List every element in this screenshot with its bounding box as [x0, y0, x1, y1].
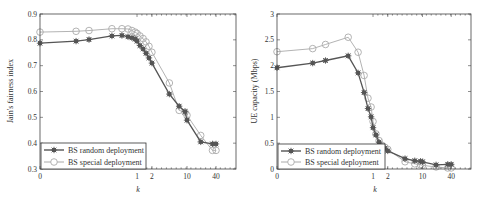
y-tick-label: 1.5: [265, 87, 275, 96]
x-tick-label: 40: [447, 172, 455, 181]
y-tick-label: 2.5: [265, 35, 275, 44]
x-tick-label: 2: [150, 172, 154, 181]
capacity-x-label: k: [373, 185, 377, 194]
y-tick-label: 0.5: [28, 113, 38, 122]
capacity-plot: 00.511.522.530121040 UE capacity (Mbps) …: [250, 10, 471, 195]
y-tick-label: 0: [270, 165, 274, 174]
x-tick-label: 1: [135, 172, 139, 181]
y-tick-label: 1: [270, 113, 274, 122]
figure: 0.30.40.50.60.70.80.90121040 Jain's fair…: [0, 0, 489, 204]
capacity-legend: BS random deployment BS special deployme…: [278, 144, 385, 169]
x-tick-label: 40: [212, 172, 220, 181]
fairness-plot: 0.30.40.50.60.70.80.90121040 Jain's fair…: [6, 10, 236, 195]
y-tick-label: 3: [270, 10, 274, 19]
capacity-y-label: UE capacity (Mbps): [250, 58, 259, 123]
fairness-legend-label-special: BS special deployment: [68, 158, 143, 167]
y-tick-label: 0.7: [28, 61, 38, 70]
y-tick-label: 0.4: [28, 139, 38, 148]
capacity-legend-label-random: BS random deployment: [305, 147, 382, 156]
fairness-legend-label-random: BS random deployment: [68, 146, 145, 155]
fairness-series-layer: [37, 25, 220, 153]
x-tick-label: 1: [371, 172, 375, 181]
fairness-x-label: k: [136, 185, 140, 194]
fairness-legend: BS random deployment BS special deployme…: [41, 143, 146, 169]
circle-marker-icon: [288, 159, 295, 166]
series-special-deployment: [37, 25, 220, 153]
y-tick-label: 0.6: [28, 87, 38, 96]
capacity-legend-label-special: BS special deployment: [305, 158, 380, 167]
series-random-deployment: [37, 32, 219, 147]
fairness-y-label: Jain's fairness index: [6, 59, 15, 123]
circle-marker-icon: [51, 159, 58, 166]
x-tick-label: 0: [38, 172, 42, 181]
x-tick-label: 0: [275, 172, 279, 181]
x-tick-label: 10: [183, 172, 191, 181]
asterisk-square-marker-icon: [51, 147, 57, 153]
y-tick-label: 0.5: [265, 139, 275, 148]
x-tick-label: 10: [419, 172, 427, 181]
y-tick-label: 2: [270, 61, 274, 70]
y-tick-label: 0.9: [28, 10, 38, 19]
y-tick-label: 0.3: [28, 165, 38, 174]
asterisk-square-marker-icon: [288, 148, 294, 154]
x-tick-label: 2: [386, 172, 390, 181]
y-tick-label: 0.8: [28, 35, 38, 44]
